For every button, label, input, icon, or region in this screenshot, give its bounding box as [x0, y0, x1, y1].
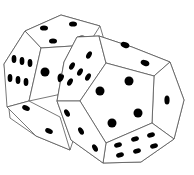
dice-svg [0, 0, 194, 175]
front-die-right-pips [164, 96, 169, 105]
front-die [57, 36, 184, 163]
dice-illustration [0, 0, 194, 175]
